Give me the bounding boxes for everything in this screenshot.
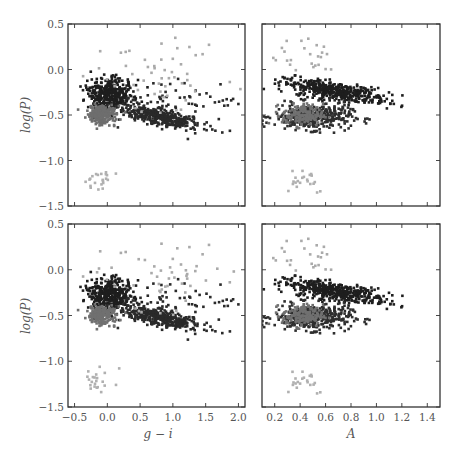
x-tick-label: 1.0	[368, 411, 385, 423]
y-tick-label: 0.5	[47, 18, 64, 30]
x-tick-label: 2.0	[230, 411, 247, 423]
scatter-points	[239, 37, 404, 193]
x-tick-label: 0.6	[317, 411, 334, 423]
scatter-figure: −1.5−1.0−0.50.00.5 −0.50.00.51.01.52.0−1…	[0, 0, 459, 458]
panel-bottom-right: 0.20.40.60.81.01.21.4	[239, 224, 440, 423]
y-tick-label: −0.5	[39, 310, 65, 322]
panel-bottom-left: −0.50.00.51.01.52.0−1.5−1.0−0.50.00.5	[39, 216, 259, 423]
series-light-gray-sparse	[272, 37, 332, 71]
x-tick-label: 1.5	[197, 411, 214, 423]
xlabel-right: A	[346, 427, 356, 441]
series-medium-gray-cluster	[77, 103, 127, 130]
x-tick-label: 0.4	[292, 411, 309, 423]
y-tick-label: −1.0	[39, 355, 65, 367]
x-tick-label: 1.4	[419, 411, 436, 423]
ylabel-top: log(P)	[19, 97, 33, 134]
y-tick-label: 0.0	[47, 264, 64, 276]
series-light-gray-low	[287, 170, 322, 194]
series-dark-cluster-B	[104, 101, 231, 141]
x-tick-label: 0.8	[343, 411, 360, 423]
x-tick-label: 1.2	[394, 411, 411, 423]
panel-top-right	[239, 24, 440, 206]
series-light-gray-sparse	[272, 238, 332, 272]
scatter-points	[239, 238, 404, 395]
y-tick-label: −0.5	[39, 109, 65, 121]
y-tick-label: −1.0	[39, 155, 65, 167]
series-light-gray-low	[86, 366, 120, 394]
series-dark-upper-band	[239, 74, 404, 110]
x-tick-label: 1.0	[165, 411, 182, 423]
x-tick-label: 0.0	[99, 411, 116, 423]
x-tick-label: 0.5	[132, 411, 149, 423]
panel-top-left: −1.5−1.0−0.50.00.5	[39, 16, 259, 212]
series-medium-gray-cluster	[77, 303, 127, 330]
series-dark-upper-band	[239, 274, 404, 310]
y-tick-label: −1.5	[39, 200, 65, 212]
y-tick-label: 0.5	[47, 218, 64, 230]
x-tick-label: −0.5	[62, 411, 88, 423]
xlabel-left: g − i	[143, 427, 172, 441]
series-dark-cluster-B	[104, 301, 231, 341]
x-tick-label: 0.2	[266, 411, 283, 423]
y-tick-label: 0.0	[47, 64, 64, 76]
scatter-points	[77, 216, 258, 394]
series-light-gray-low	[287, 370, 322, 394]
series-light-gray-low	[84, 171, 117, 191]
scatter-points	[77, 16, 258, 191]
y-tick-label: −1.5	[39, 401, 65, 413]
ylabel-bottom: log(P)	[19, 298, 33, 335]
